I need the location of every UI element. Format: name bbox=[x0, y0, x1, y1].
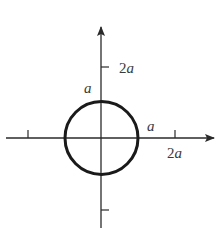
diagram-canvas: 2a a a 2a bbox=[0, 0, 223, 228]
label-y-2a-var: a bbox=[127, 60, 135, 76]
label-x-2a-var: a bbox=[175, 145, 183, 161]
label-x-2a: 2a bbox=[167, 145, 182, 161]
label-y-2a-coef: 2 bbox=[119, 60, 127, 76]
label-circle-right-a: a bbox=[147, 118, 155, 134]
label-x-2a-coef: 2 bbox=[167, 145, 175, 161]
label-y-2a: 2a bbox=[119, 60, 134, 76]
label-circle-top-a: a bbox=[84, 80, 92, 96]
